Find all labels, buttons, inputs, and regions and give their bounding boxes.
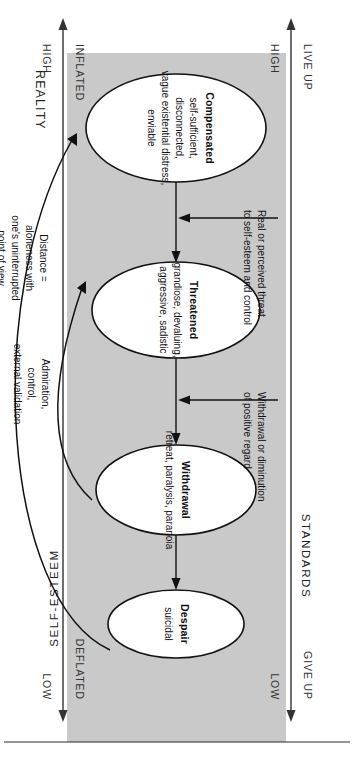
- feedback-label-line: aloneness with: [24, 225, 35, 291]
- reality-band-label: REALITY: [33, 70, 47, 130]
- state-line: self-sufficient,: [188, 98, 199, 159]
- state-line: suicidal: [163, 607, 174, 640]
- state-line: vague existential distress,: [160, 71, 171, 186]
- trigger-label-line: Real or perceived threat: [256, 210, 267, 317]
- standards-left-primary: HIGH: [269, 44, 281, 74]
- trigger-label-line: of positive regard: [242, 392, 253, 469]
- state-title-compensated: Compensated: [204, 92, 216, 164]
- standards-left-secondary: LIVE UP: [302, 44, 314, 91]
- standards-right-secondary: GIVE UP: [302, 651, 314, 700]
- state-node-despair[interactable]: Despair suicidal: [108, 590, 244, 658]
- self-esteem-right-secondary: DEFLATED: [74, 639, 86, 700]
- feedback-label-line: control,: [26, 368, 37, 401]
- feedback-label-line: Distance =: [38, 234, 49, 282]
- self-esteem-right-primary: LOW: [41, 673, 53, 700]
- feedback-label-line: Admiration,: [40, 359, 51, 410]
- self-esteem-axis-arrow-right: [59, 710, 68, 722]
- self-esteem-left-secondary: INFLATED: [74, 44, 86, 101]
- state-title-withdrawal: Withdrawal: [180, 461, 192, 519]
- rotated-diagram-group: LIVE UP HIGH GIVE UP LOW STANDARDS INFLA…: [0, 0, 354, 757]
- narcissism-cycle-svg: LIVE UP HIGH GIVE UP LOW STANDARDS INFLA…: [0, 0, 354, 757]
- state-node-threatened[interactable]: Threatened grandiose, devaluing, aggress…: [92, 262, 260, 358]
- self-esteem-axis-arrow-left: [59, 18, 68, 30]
- state-title-threatened: Threatened: [188, 281, 200, 340]
- trigger-label-line: Withdrawal or diminution: [256, 392, 267, 502]
- state-line: retreat, paralysis, paranoia: [164, 431, 175, 550]
- trigger-label-line: to self-esteem and control: [242, 210, 253, 325]
- feedback-label-line: point of view: [0, 230, 7, 286]
- feedback-label-line: one's uninterrupted: [10, 215, 21, 300]
- standards-axis-name: STANDARDS: [300, 514, 312, 598]
- feedback-label-line: external validation: [12, 344, 23, 425]
- state-line: enviable: [146, 109, 157, 147]
- state-title-despair: Despair: [179, 604, 191, 644]
- standards-axis-arrow-right: [287, 710, 296, 722]
- standards-axis-arrow-left: [287, 18, 296, 30]
- standards-right-primary: LOW: [269, 673, 281, 700]
- state-line: disconnected,: [174, 97, 185, 159]
- state-line: grandiose, devaluing,: [172, 262, 183, 357]
- state-line: aggressive, sadistic: [158, 266, 169, 353]
- diagram-canvas: LIVE UP HIGH GIVE UP LOW STANDARDS INFLA…: [0, 0, 354, 757]
